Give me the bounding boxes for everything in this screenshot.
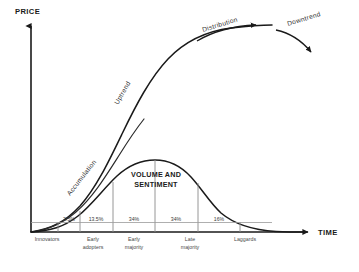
price-axis-label: PRICE <box>15 7 40 16</box>
segment-percent-0: 2.5% <box>63 216 75 222</box>
segment-name-3-line2: majority <box>181 244 200 250</box>
phase-label-downtrend: Downtrend <box>286 10 321 27</box>
time-axis-label: TIME <box>318 228 338 237</box>
downtrend-arrow <box>276 30 311 52</box>
market-cycle-diagram: PRICE TIME Accumulation Uptrend Distribu… <box>0 0 359 272</box>
volume-sentiment-title-line2: SENTIMENT <box>134 180 178 189</box>
price-s-curve <box>31 25 272 232</box>
segment-percent-1: 13.5% <box>89 216 104 222</box>
phase-label-uptrend: Uptrend <box>113 80 133 106</box>
segment-name-4-line1: Laggards <box>234 236 256 242</box>
volume-sentiment-title-line1: VOLUME AND <box>131 170 181 179</box>
segment-percent-4: 16% <box>214 216 225 222</box>
phase-label-accumulation: Accumulation <box>65 158 97 196</box>
segment-name-2-line1: Early <box>128 236 140 242</box>
segment-percent-3: 34% <box>171 216 182 222</box>
diagram-canvas: PRICE TIME Accumulation Uptrend Distribu… <box>0 0 359 272</box>
segment-name-0-line1: Innovators <box>35 236 60 242</box>
segment-name-2-line2: majority <box>125 244 144 250</box>
segment-name-1-line1: Early <box>87 236 99 242</box>
accumulation-shadow-curve <box>31 119 144 232</box>
segment-name-3-line1: Late <box>185 236 195 242</box>
segment-percent-2: 34% <box>129 216 140 222</box>
segment-name-1-line2: adopters <box>83 244 104 250</box>
